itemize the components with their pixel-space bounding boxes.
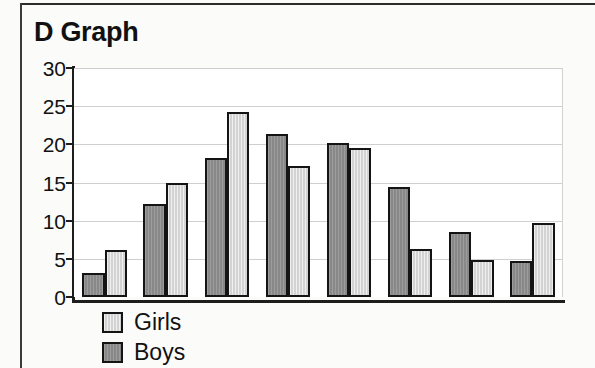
bar-girls-3	[227, 112, 249, 297]
bar-boys-6	[388, 187, 410, 297]
y-tick-label: 15	[26, 173, 66, 194]
bar-girls-4	[288, 166, 310, 297]
bar-boys-2	[143, 204, 165, 297]
legend-swatch-boys-icon	[102, 342, 123, 363]
bar-girls-6	[410, 249, 432, 297]
legend-label: Boys	[134, 341, 185, 364]
bar-girls-8	[532, 223, 554, 297]
y-tick-label: 10	[26, 211, 66, 232]
bar-boys-7	[449, 232, 471, 297]
legend-item-girls: Girls	[102, 307, 185, 337]
bars-layer	[74, 68, 563, 297]
plot-area	[74, 68, 563, 297]
chart-legend: GirlsBoys	[102, 307, 185, 367]
bar-girls-7	[471, 260, 493, 297]
bar-boys-1	[82, 273, 104, 297]
legend-item-boys: Boys	[102, 337, 185, 367]
y-tick-label: 5	[26, 249, 66, 270]
bar-girls-5	[349, 148, 371, 297]
y-tick-label: 0	[26, 287, 66, 308]
y-tick-label: 25	[26, 96, 66, 117]
bar-boys-5	[327, 143, 349, 297]
legend-swatch-girls-icon	[102, 312, 123, 333]
bar-boys-4	[266, 134, 288, 297]
bar-girls-2	[166, 183, 188, 298]
bar-chart-figure: D Graph 051015202530 GirlsBoys	[22, 5, 595, 368]
y-tick-label: 20	[26, 134, 66, 155]
bar-boys-3	[205, 158, 227, 297]
x-axis-line	[72, 300, 565, 303]
bar-boys-8	[510, 261, 532, 297]
bar-girls-1	[105, 250, 127, 297]
y-tick-label: 30	[26, 58, 66, 79]
y-axis-tick-labels: 051015202530	[22, 5, 66, 368]
legend-label: Girls	[134, 311, 181, 334]
